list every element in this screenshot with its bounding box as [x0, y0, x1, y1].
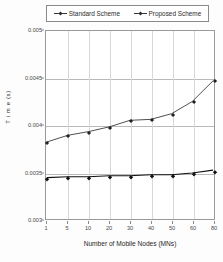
y-tick-label: 0.0045	[25, 75, 42, 81]
x-tick-mark	[88, 221, 89, 224]
x-tick-mark	[109, 221, 110, 224]
x-tick-label: 30	[127, 225, 133, 231]
x-axis-ticks: 1510203040506080	[45, 221, 215, 235]
x-tick-mark	[67, 221, 68, 224]
x-tick-mark	[46, 221, 47, 224]
x-tick-label: 50	[169, 225, 175, 231]
x-tick-mark	[193, 221, 194, 224]
x-tick-mark	[172, 221, 173, 224]
legend-label-proposed-scheme: Proposed Scheme	[149, 10, 202, 17]
x-tick-label: 60	[190, 225, 196, 231]
y-tick-mark	[41, 125, 44, 126]
line-marker-icon	[54, 10, 67, 17]
x-tick-label: 1	[44, 225, 47, 231]
x-tick-label: 80	[211, 225, 217, 231]
legend-item-proposed-scheme[interactable]: Proposed Scheme	[134, 10, 202, 17]
x-tick-mark	[151, 221, 152, 224]
x-axis-title: Number of Mobile Nodes (MNs)	[45, 240, 215, 247]
x-tick-label: 40	[148, 225, 154, 231]
x-tick-label: 5	[65, 225, 68, 231]
x-tick-mark	[214, 221, 215, 224]
y-tick-label: 0.004	[28, 122, 42, 128]
plot-area	[45, 30, 215, 220]
series-layer	[46, 31, 214, 219]
chart-legend: Standard Scheme Proposed Scheme	[46, 5, 209, 22]
y-tick-mark	[41, 220, 44, 221]
legend-label-standard-scheme: Standard Scheme	[69, 10, 120, 17]
x-tick-label: 20	[106, 225, 112, 231]
x-tick-label: 10	[85, 225, 91, 231]
y-tick-label: 0.003	[28, 217, 42, 223]
y-tick-label: 0.0035	[25, 170, 42, 176]
series-line	[47, 81, 213, 142]
y-tick-mark	[41, 30, 44, 31]
y-tick-mark	[41, 172, 44, 173]
x-tick-mark	[130, 221, 131, 224]
y-tick-label: 0.005	[28, 27, 42, 33]
line-marker-icon	[134, 10, 147, 17]
y-tick-mark	[41, 77, 44, 78]
data-point-marker	[213, 170, 217, 174]
chart-figure: Standard Scheme Proposed Scheme 0.0050.0…	[0, 0, 223, 262]
y-axis-title: T i m e (s)	[5, 77, 11, 137]
legend-item-standard-scheme[interactable]: Standard Scheme	[54, 10, 120, 17]
